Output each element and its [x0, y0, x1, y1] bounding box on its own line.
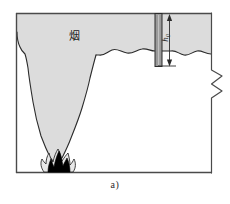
smoke-layer-diagram: h0 烟	[0, 0, 230, 204]
smoke-label: 烟	[69, 29, 80, 43]
figure-caption: a)	[0, 179, 230, 190]
